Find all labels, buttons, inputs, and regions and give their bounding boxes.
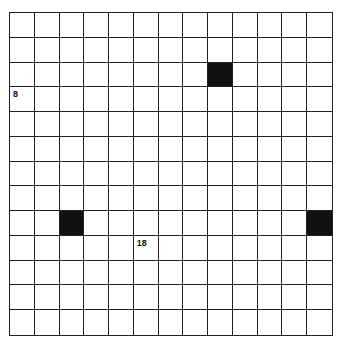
grid-cell[interactable] — [10, 261, 35, 286]
grid-cell[interactable] — [307, 87, 332, 112]
grid-cell[interactable] — [10, 63, 35, 88]
grid-cell[interactable] — [35, 137, 60, 162]
grid-cell[interactable] — [109, 236, 134, 261]
grid-cell[interactable] — [10, 211, 35, 236]
grid-cell[interactable] — [183, 13, 208, 38]
grid-cell[interactable] — [282, 186, 307, 211]
grid-cell[interactable] — [84, 137, 109, 162]
grid-cell[interactable] — [208, 87, 233, 112]
grid-cell[interactable] — [307, 38, 332, 63]
grid-cell[interactable] — [233, 162, 258, 187]
grid-cell[interactable] — [35, 310, 60, 335]
grid-cell[interactable] — [233, 310, 258, 335]
grid-cell[interactable] — [233, 112, 258, 137]
grid-cell[interactable] — [35, 112, 60, 137]
grid-cell[interactable] — [134, 285, 159, 310]
grid-cell[interactable] — [134, 186, 159, 211]
grid-cell[interactable] — [60, 38, 85, 63]
grid-cell[interactable] — [134, 38, 159, 63]
grid-cell[interactable] — [307, 63, 332, 88]
grid-cell[interactable] — [159, 211, 184, 236]
grid-cell[interactable] — [233, 38, 258, 63]
grid-cell[interactable] — [35, 186, 60, 211]
grid-cell[interactable] — [307, 310, 332, 335]
grid-cell[interactable] — [10, 162, 35, 187]
grid-cell[interactable] — [183, 63, 208, 88]
grid-cell[interactable] — [84, 236, 109, 261]
grid-cell[interactable] — [282, 137, 307, 162]
grid-cell[interactable] — [208, 186, 233, 211]
grid-cell[interactable] — [35, 211, 60, 236]
grid-cell[interactable] — [307, 186, 332, 211]
grid-cell[interactable] — [60, 63, 85, 88]
grid-cell[interactable] — [109, 13, 134, 38]
grid-cell[interactable] — [35, 63, 60, 88]
grid-cell[interactable] — [159, 63, 184, 88]
grid-cell[interactable] — [282, 236, 307, 261]
grid-cell[interactable] — [84, 13, 109, 38]
grid-cell[interactable] — [109, 63, 134, 88]
grid-cell[interactable] — [134, 87, 159, 112]
grid-cell[interactable] — [233, 137, 258, 162]
grid-cell[interactable] — [258, 63, 283, 88]
grid-cell[interactable] — [183, 236, 208, 261]
grid-cell[interactable] — [60, 137, 85, 162]
grid-cell[interactable] — [258, 285, 283, 310]
grid-cell[interactable] — [258, 236, 283, 261]
grid-cell[interactable] — [208, 137, 233, 162]
grid-cell[interactable] — [159, 87, 184, 112]
grid-cell[interactable] — [307, 137, 332, 162]
grid-cell[interactable] — [307, 261, 332, 286]
grid-cell[interactable] — [258, 137, 283, 162]
grid-cell[interactable] — [159, 137, 184, 162]
grid-cell[interactable] — [282, 38, 307, 63]
grid-cell[interactable] — [208, 112, 233, 137]
grid-cell[interactable] — [159, 162, 184, 187]
grid-cell[interactable] — [109, 261, 134, 286]
grid-cell[interactable] — [183, 310, 208, 335]
grid-cell[interactable] — [35, 236, 60, 261]
grid-cell[interactable] — [159, 310, 184, 335]
grid-cell[interactable] — [233, 87, 258, 112]
grid-cell[interactable] — [258, 87, 283, 112]
grid-cell[interactable] — [60, 186, 85, 211]
grid-cell[interactable] — [84, 310, 109, 335]
grid-cell[interactable] — [208, 211, 233, 236]
grid-cell[interactable] — [233, 211, 258, 236]
grid-cell[interactable] — [84, 186, 109, 211]
grid-cell[interactable]: 18 — [134, 236, 159, 261]
grid-cell[interactable] — [307, 13, 332, 38]
grid-cell[interactable] — [134, 63, 159, 88]
grid-cell[interactable] — [134, 211, 159, 236]
grid-cell[interactable] — [109, 137, 134, 162]
grid-cell[interactable] — [109, 112, 134, 137]
grid-cell[interactable] — [282, 261, 307, 286]
grid-cell[interactable] — [183, 285, 208, 310]
grid-cell[interactable] — [159, 236, 184, 261]
grid-cell[interactable] — [60, 261, 85, 286]
grid-cell[interactable] — [109, 310, 134, 335]
grid-cell[interactable] — [183, 186, 208, 211]
grid-cell[interactable] — [183, 112, 208, 137]
grid-cell[interactable] — [10, 310, 35, 335]
grid-cell[interactable] — [258, 186, 283, 211]
grid-cell[interactable] — [159, 38, 184, 63]
grid-cell[interactable] — [307, 162, 332, 187]
grid-cell[interactable] — [258, 162, 283, 187]
grid-cell[interactable] — [134, 112, 159, 137]
grid-cell[interactable] — [84, 162, 109, 187]
grid-cell[interactable] — [282, 310, 307, 335]
grid-cell[interactable] — [134, 137, 159, 162]
grid-cell[interactable] — [109, 162, 134, 187]
grid-cell[interactable] — [233, 13, 258, 38]
grid-cell[interactable] — [60, 87, 85, 112]
grid-cell[interactable] — [84, 38, 109, 63]
grid-cell[interactable] — [109, 38, 134, 63]
grid-cell[interactable] — [208, 13, 233, 38]
grid-cell[interactable] — [208, 236, 233, 261]
grid-cell[interactable] — [233, 186, 258, 211]
grid-cell[interactable] — [35, 285, 60, 310]
grid-cell[interactable] — [233, 63, 258, 88]
grid-cell[interactable] — [84, 285, 109, 310]
grid-cell[interactable]: 8 — [10, 87, 35, 112]
